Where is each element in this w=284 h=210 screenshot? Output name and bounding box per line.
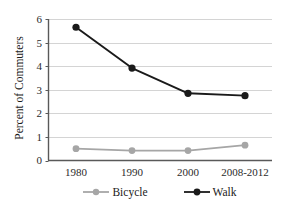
series-line-bicycle [76,145,245,150]
series-bicycle [73,142,249,154]
line-chart: Percent of Commuters 6 5 4 3 2 1 0 1980 … [0,0,284,210]
walk-legend-marker-icon [184,187,210,197]
axis-lines [48,19,272,161]
data-point-bicycle-1990[interactable] [129,147,136,154]
data-point-bicycle-1980[interactable] [73,145,80,152]
series-walk [72,24,248,100]
data-point-walk-1990[interactable] [128,64,135,71]
data-point-walk-1980[interactable] [72,24,79,31]
bicycle-legend-marker-icon [83,187,109,197]
data-point-walk-2000[interactable] [184,90,191,97]
legend-item-walk[interactable]: Walk [184,186,237,198]
legend-item-bicycle[interactable]: Bicycle [83,186,147,198]
gridlines [46,20,273,162]
data-point-bicycle-2000[interactable] [185,147,192,154]
series-line-walk [76,27,245,95]
legend-label-walk: Walk [213,186,237,198]
data-point-walk-2008-2012[interactable] [241,92,248,99]
data-point-bicycle-2008-2012[interactable] [242,142,249,149]
chart-legend: Bicycle Walk [48,186,272,198]
legend-label-bicycle: Bicycle [112,186,147,198]
plot-area [0,0,284,210]
